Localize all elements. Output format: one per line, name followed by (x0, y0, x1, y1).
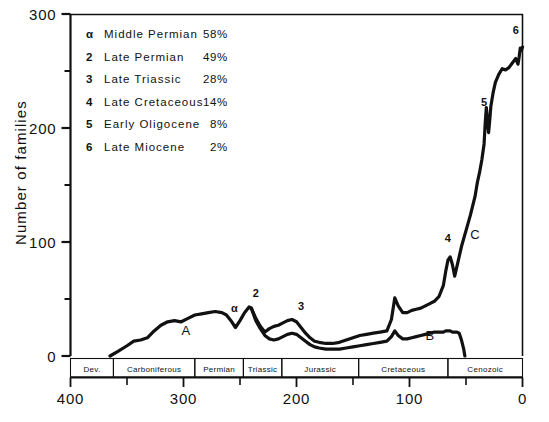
legend-percent: 58% (203, 28, 228, 40)
era-label: Cretaceous (381, 365, 425, 374)
x-tick-label: 200 (283, 390, 310, 407)
event-marker-α: α (231, 302, 238, 314)
legend-percent: 49% (203, 51, 228, 63)
event-markers: α23456 (231, 24, 519, 314)
chart-page: Number of families 0100200300 4003002001… (0, 0, 549, 422)
legend-name: Early Oligocene (104, 118, 200, 130)
y-axis-ticks: 0100200300 (29, 6, 70, 365)
event-marker-3: 3 (298, 300, 304, 312)
x-axis-ticks: 4003002001000 (57, 378, 527, 408)
region-label-A: A (181, 323, 190, 338)
legend-symbol: α (86, 28, 93, 40)
era-label: Permian (203, 365, 235, 374)
legend-block: αMiddle Permian58%2Late Permian49%3Late … (86, 28, 228, 153)
region-label-B: B (426, 328, 435, 343)
legend-name: Late Permian (104, 51, 184, 63)
era-label: Triassic (248, 365, 278, 374)
event-marker-6: 6 (513, 24, 519, 36)
event-marker-4: 4 (445, 232, 452, 244)
legend-symbol: 2 (86, 51, 92, 63)
era-label: Dev. (83, 365, 100, 374)
y-tick-label: 200 (29, 120, 56, 137)
x-tick-label: 400 (57, 390, 84, 407)
region-label-C: C (470, 227, 479, 242)
y-tick-label: 300 (29, 6, 56, 23)
legend-percent: 2% (210, 141, 228, 153)
y-tick-label: 0 (47, 348, 56, 365)
legend-symbol: 4 (86, 96, 93, 108)
x-tick-label: 300 (170, 390, 197, 407)
extinction-diversity-chart: Number of families 0100200300 4003002001… (0, 0, 549, 422)
event-marker-5: 5 (481, 96, 487, 108)
legend-name: Middle Permian (104, 28, 198, 40)
legend-symbol: 5 (86, 118, 93, 130)
legend-name: Late Triassic (104, 73, 182, 85)
legend-percent: 8% (210, 118, 228, 130)
x-tick-label: 100 (396, 390, 423, 407)
legend-symbol: 3 (86, 73, 92, 85)
event-marker-2: 2 (253, 287, 259, 299)
diversity-curves (110, 47, 522, 356)
legend-percent: 14% (203, 96, 228, 108)
era-band: Dev.CarboniferousPermianTriassicJurassic… (71, 359, 523, 378)
legend-symbol: 6 (86, 141, 92, 153)
legend-percent: 28% (203, 73, 228, 85)
y-axis-title: Number of families (12, 100, 29, 245)
era-label: Carboniferous (127, 365, 181, 374)
region-labels: ABC (181, 227, 479, 343)
y-tick-label: 100 (29, 234, 56, 251)
era-label: Jurassic (304, 365, 336, 374)
x-tick-label: 0 (518, 390, 527, 407)
legend-name: Late Cretaceous (104, 96, 203, 108)
upper-curve-total-families (110, 47, 522, 356)
y-axis-title-text: Number of families (12, 100, 29, 245)
era-label: Cenozoic (467, 365, 503, 374)
legend-name: Late Miocene (104, 141, 185, 153)
